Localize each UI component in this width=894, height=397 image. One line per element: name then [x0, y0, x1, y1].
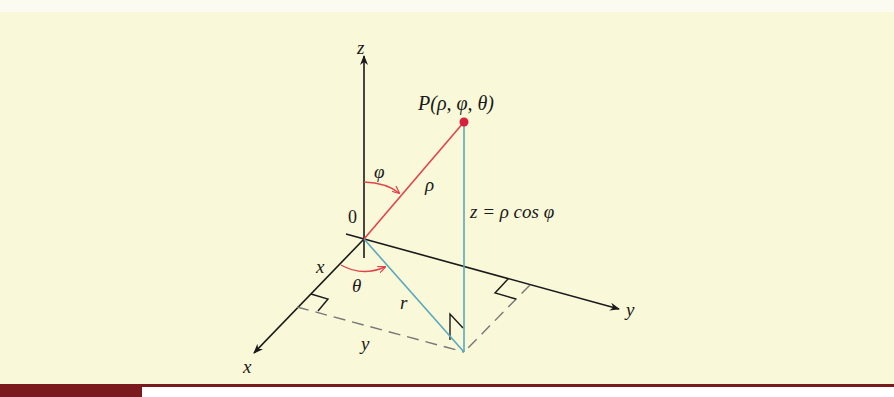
theta-arc: [341, 265, 385, 272]
y-axis: [346, 234, 619, 309]
theta-label: θ: [352, 276, 361, 295]
spherical-coordinates-diagram: [0, 0, 894, 385]
x-segment-label: x: [316, 257, 324, 276]
x-axis-label: x: [243, 357, 251, 376]
dashed-x-projection: [464, 285, 530, 352]
point-label: P(ρ, φ, θ): [418, 93, 494, 113]
right-angle-marker-y: [495, 279, 516, 299]
origin-label: 0: [348, 208, 357, 226]
z-formula-label: z = ρ cos φ: [470, 202, 554, 221]
phi-label: φ: [374, 162, 385, 181]
figure-tag: [0, 387, 142, 397]
y-segment-label: y: [361, 334, 369, 353]
rho-label: ρ: [425, 175, 434, 194]
r-label: r: [400, 293, 407, 312]
y-axis-label: y: [626, 300, 634, 319]
r-segment: [364, 239, 464, 352]
z-axis-label: z: [357, 38, 364, 57]
right-angle-marker-x: [311, 294, 328, 311]
x-axis: [254, 239, 364, 353]
point-p: [460, 118, 469, 127]
phi-arc: [364, 182, 399, 193]
dashed-y-projection: [297, 307, 464, 352]
caption-text: [160, 387, 880, 397]
right-angle-marker-vertex: [450, 314, 463, 340]
